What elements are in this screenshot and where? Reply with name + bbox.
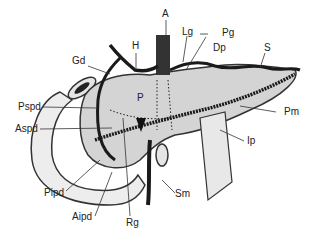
label-Lg: Lg [182, 27, 193, 37]
aorta [156, 35, 170, 75]
label-Ip: Ip [247, 136, 255, 146]
mesentery-panel [200, 112, 232, 200]
label-Dp: Dp [213, 43, 226, 53]
label-Aipd: Aipd [72, 212, 92, 222]
superior-mesenteric-artery [148, 140, 150, 205]
label-Pm: Pm [284, 107, 299, 117]
label-S: S [264, 43, 271, 53]
label-Gd: Gd [72, 56, 85, 66]
label-A: A [162, 9, 169, 19]
vessel-cross-section [156, 144, 168, 166]
label-Sm: Sm [175, 189, 190, 199]
pancreas-diagram: A Lg Pg Dp H Gd S Pspd P Pm Aspd Ip Pipd… [0, 0, 320, 235]
label-Rg: Rg [126, 218, 139, 228]
label-Pg: Pg [222, 28, 234, 38]
label-Pspd: Pspd [18, 102, 41, 112]
label-H: H [132, 41, 139, 51]
diagram-artwork [0, 0, 320, 235]
label-P: P [137, 93, 144, 103]
pancreas [80, 64, 296, 167]
label-Aspd: Aspd [15, 124, 38, 134]
label-Pipd: Pipd [44, 188, 64, 198]
